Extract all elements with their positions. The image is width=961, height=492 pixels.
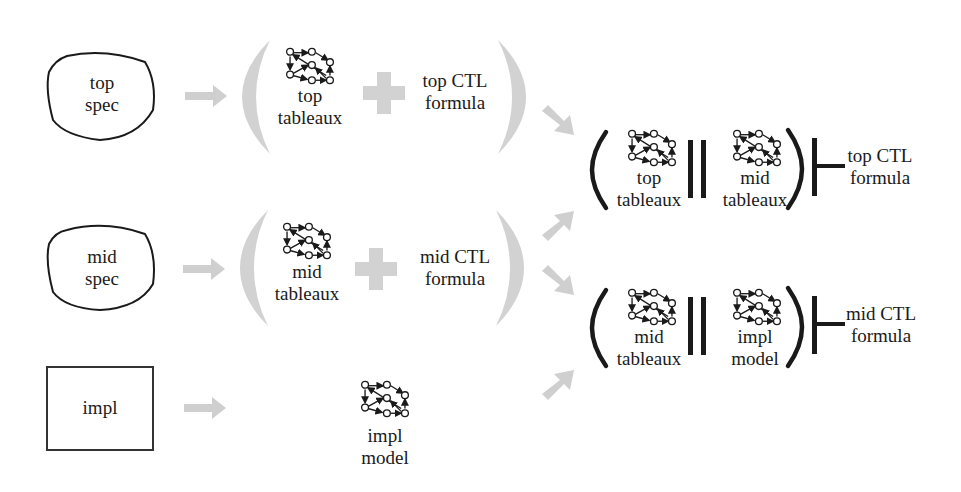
state-transition-graph-icon <box>280 222 334 260</box>
state-transition-graph-icon <box>730 288 784 326</box>
plus-icon <box>363 72 405 114</box>
impl-label: impl <box>60 397 140 419</box>
top-tableaux-label: top tableaux <box>265 85 355 129</box>
parallel-composition-operator <box>701 297 706 355</box>
left-paren <box>588 130 610 210</box>
parallel-composition-operator <box>688 140 693 198</box>
top-check-left-label: top tableaux <box>608 167 690 211</box>
arrow-icon <box>184 397 228 419</box>
mid-tableaux-label: mid tableaux <box>262 261 352 305</box>
plus-icon <box>355 248 397 290</box>
top-check-formula-label: top CTL formula <box>840 145 920 189</box>
parallel-composition-operator <box>701 140 706 198</box>
state-transition-graph-icon <box>730 129 784 167</box>
arrow-icon <box>540 207 576 243</box>
right-paren <box>784 128 806 210</box>
state-transition-graph-icon <box>358 380 412 418</box>
state-transition-graph-icon <box>283 47 337 85</box>
mid-check-formula-label: mid CTL formula <box>840 303 922 347</box>
impl-model-label: impl model <box>345 425 425 469</box>
arrow-icon <box>183 258 227 280</box>
mid-ctl-formula-label: mid CTL formula <box>410 246 500 290</box>
state-transition-graph-icon <box>625 288 679 326</box>
state-transition-graph-icon <box>625 129 679 167</box>
arrow-icon <box>540 103 576 137</box>
top-spec-label: top spec <box>70 72 134 116</box>
right-paren <box>784 286 806 368</box>
mid-check-left-label: mid tableaux <box>608 326 690 370</box>
left-paren <box>588 288 610 368</box>
arrow-icon <box>185 85 229 107</box>
mid-spec-label: mid spec <box>70 246 134 290</box>
arrow-icon <box>540 366 576 402</box>
top-ctl-formula-label: top CTL formula <box>410 70 500 114</box>
arrow-icon <box>540 263 576 297</box>
parallel-composition-operator <box>688 297 693 355</box>
